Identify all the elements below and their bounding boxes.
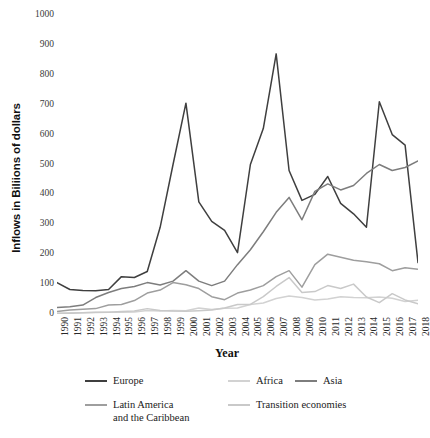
x-tick-label: 1993 (100, 317, 110, 336)
x-tick-label: 2012 (345, 317, 355, 336)
x-tick-label: 2008 (293, 317, 303, 336)
legend-label: Europe (113, 374, 143, 387)
x-tick-label: 2014 (370, 317, 380, 336)
legend-swatch-icon (228, 380, 250, 382)
x-tick-label: 2002 (216, 317, 226, 336)
x-tick-label: 2018 (422, 317, 430, 336)
legend-item[interactable]: Transition economies (228, 398, 346, 411)
y-tick-label: 300 (20, 219, 54, 229)
legend-swatch-icon (85, 404, 107, 406)
x-tick-label: 2000 (190, 317, 200, 336)
y-tick-label: 0 (20, 309, 54, 319)
x-tick-label: 1992 (87, 317, 97, 336)
x-tick-label: 2003 (229, 317, 239, 336)
x-tick-label: 2009 (306, 317, 316, 336)
x-axis-title: Year (0, 346, 430, 361)
x-tick-label: 1999 (177, 317, 187, 336)
x-tick-label: 1991 (74, 317, 84, 336)
legend-label: Latin America and the Caribbean (113, 398, 189, 424)
x-tick-label: 2005 (254, 317, 264, 336)
legend-item[interactable]: Latin America and the Caribbean (85, 398, 189, 424)
x-tick-label: 2013 (358, 317, 368, 336)
legend-item[interactable]: Europe (85, 374, 143, 387)
y-tick-label: 500 (20, 160, 54, 170)
y-tick-label: 600 (20, 130, 54, 140)
series-line-europe (57, 54, 418, 291)
legend-item[interactable]: Africa (228, 374, 283, 387)
chart-figure: Inflows in Biliions of dollars 010020030… (0, 0, 430, 438)
x-tick-label: 2010 (319, 317, 329, 336)
y-tick-label: 900 (20, 40, 54, 50)
y-tick-label: 700 (20, 100, 54, 110)
x-tick-label: 2016 (396, 317, 406, 336)
x-tick-label: 2015 (383, 317, 393, 336)
x-tick-label: 2011 (332, 317, 342, 336)
y-tick-label: 1000 (20, 10, 54, 20)
legend-swatch-icon (228, 404, 250, 406)
y-tick-label: 200 (20, 249, 54, 259)
x-tick-label: 1996 (138, 317, 148, 336)
legend-swatch-icon (295, 380, 317, 382)
x-tick-label: 1990 (61, 317, 71, 336)
series-line-asia (57, 161, 418, 308)
series-lines (57, 15, 418, 314)
y-tick-label: 800 (20, 70, 54, 80)
x-tick-label: 2001 (203, 317, 213, 336)
x-tick-label: 1994 (113, 317, 123, 336)
legend-item[interactable]: Asia (295, 374, 342, 387)
x-tick-label: 2017 (409, 317, 419, 336)
y-tick-label: 400 (20, 189, 54, 199)
x-tick-label: 2006 (267, 317, 277, 336)
x-tick-label: 1995 (125, 317, 135, 336)
legend-label: Africa (256, 374, 283, 387)
y-tick-label: 100 (20, 279, 54, 289)
chart-legend: EuropeAfricaAsiaLatin America and the Ca… (0, 374, 430, 436)
x-tick-label: 2004 (242, 317, 252, 336)
x-tick-label: 1998 (164, 317, 174, 336)
x-tick-label: 1997 (151, 317, 161, 336)
series-line-latin-america (57, 254, 418, 311)
legend-label: Transition economies (256, 398, 346, 411)
y-axis-tick-labels: 01002003004005006007008009001000 (14, 0, 54, 330)
x-tick-label: 2007 (280, 317, 290, 336)
plot-area (57, 15, 418, 314)
legend-label: Asia (323, 374, 342, 387)
legend-swatch-icon (85, 380, 107, 382)
